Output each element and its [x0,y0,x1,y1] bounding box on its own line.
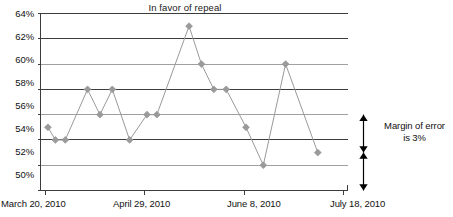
margin-of-error-label: Margin of error is 3% [376,120,453,144]
margin-of-error-line1: Margin of error [376,120,453,132]
margin-of-error-line2: is 3% [376,132,453,144]
series-line-in-favor-of-repeal [48,26,318,165]
chart-container: In favor of repeal 64% 62% 60% 58% 56% 5… [0,0,453,217]
margin-of-error-arrows [359,115,367,191]
x-axis-ticks [46,185,348,195]
axis-lines [38,14,348,191]
plot-area [0,0,453,217]
